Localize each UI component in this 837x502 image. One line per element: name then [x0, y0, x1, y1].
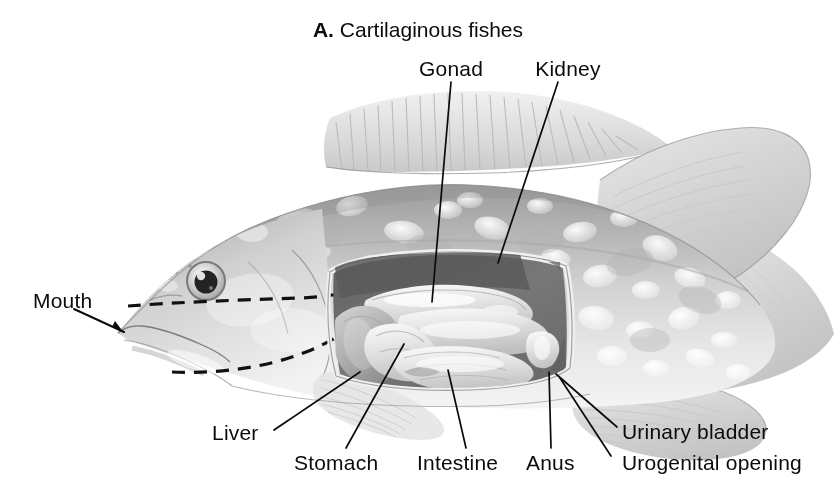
label-intestine: Intestine	[417, 451, 498, 474]
label-anus: Anus	[526, 451, 575, 474]
fish-illustration	[118, 91, 834, 460]
fish-anatomy-figure: A. Cartilaginous fishes Gonad Kidney Mou…	[0, 0, 837, 502]
label-gonad: Gonad	[419, 57, 483, 80]
label-kidney: Kidney	[535, 57, 601, 80]
eye	[187, 262, 225, 300]
figure-page: A. Cartilaginous fishes Gonad Kidney Mou…	[0, 0, 837, 502]
label-urinary-bladder: Urinary bladder	[622, 420, 769, 443]
label-stomach: Stomach	[294, 451, 378, 474]
body-cavity-cutaway	[328, 252, 572, 391]
figure-title: A. Cartilaginous fishes	[313, 18, 523, 41]
figure-title-text: Cartilaginous fishes	[340, 18, 523, 41]
figure-title-prefix: A.	[313, 18, 334, 41]
label-mouth: Mouth	[33, 289, 92, 312]
label-urogenital-opening: Urogenital opening	[622, 451, 802, 474]
leader-mouth	[74, 309, 124, 333]
label-liver: Liver	[212, 421, 259, 444]
